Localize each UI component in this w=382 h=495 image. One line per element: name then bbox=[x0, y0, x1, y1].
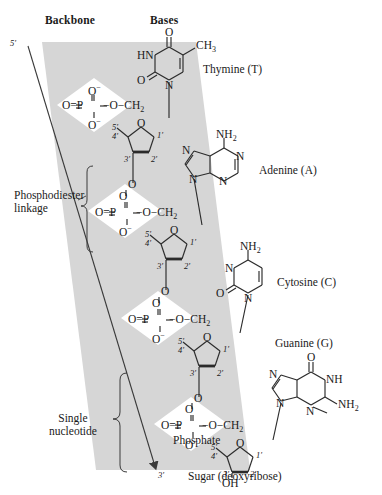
sugar-3-c4: 4′ bbox=[178, 345, 184, 355]
three-prime-terminus: 3′ bbox=[158, 470, 164, 480]
guanine-n7-label: N bbox=[269, 368, 277, 380]
base-label-guanine: Guanine (G) bbox=[275, 337, 333, 350]
linker-oxygen-3: O bbox=[194, 392, 202, 404]
sugar-3-c3: 3′ bbox=[190, 368, 196, 378]
phosphate-4-top-oxygen: O bbox=[185, 403, 193, 415]
header-backbone: Backbone bbox=[45, 14, 95, 26]
sugar-3-c1: 1′ bbox=[223, 344, 229, 354]
five-prime-terminus: 5′ bbox=[10, 38, 16, 48]
phosphate-1-formula: O=P bbox=[62, 99, 83, 111]
sugar-1-c4: 4′ bbox=[112, 131, 118, 141]
adenine-n1-label: N bbox=[236, 150, 244, 162]
callout-phosphodiester-line1: Phosphodiester bbox=[14, 189, 84, 202]
thymine-methyl-label: CH3 bbox=[196, 39, 216, 54]
callout-single-nucleotide: Single nucleotide bbox=[49, 412, 97, 438]
sugar-1-ring-oxygen: O bbox=[137, 117, 145, 129]
sugar-1-c3: 3′ bbox=[124, 154, 130, 164]
adenine-n7-label: N bbox=[182, 144, 190, 156]
dna-strand-diagram: Backbone Bases 5′ 3′ Thymine (T) Adenine… bbox=[0, 0, 382, 495]
cytosine-amino-label: NH2 bbox=[240, 240, 261, 255]
phosphate-2-bottom-oxygen: O− bbox=[119, 224, 132, 238]
sugar-2-c2: 2′ bbox=[184, 261, 190, 271]
sugar-4-c3: 3′ bbox=[223, 469, 229, 479]
sugar-4-ring-oxygen: O bbox=[236, 437, 244, 449]
adenine-n3-label: N bbox=[219, 175, 227, 187]
phosphate-4-bottom-oxygen: O− bbox=[185, 437, 198, 451]
callout-single-nucleotide-line2: nucleotide bbox=[49, 425, 97, 438]
base-label-cytosine: Cytosine (C) bbox=[277, 276, 336, 289]
base-label-thymine: Thymine (T) bbox=[203, 63, 262, 76]
guanine-n9-label: N bbox=[276, 397, 284, 409]
sugar-2-c1: 1′ bbox=[190, 237, 196, 247]
guanine-n1h-label: NH bbox=[326, 373, 343, 385]
callout-phosphodiester-line2: linkage bbox=[14, 202, 84, 215]
thymine-n3h-label: HN bbox=[137, 49, 154, 61]
linker-oxygen-1: O bbox=[128, 178, 136, 190]
guanine-n3-label: N bbox=[306, 405, 314, 417]
sugar-2-c4: 4′ bbox=[145, 238, 151, 248]
thymine-o4-label: O bbox=[165, 26, 173, 38]
header-bases: Bases bbox=[150, 14, 178, 26]
base-label-adenine: Adenine (A) bbox=[259, 164, 317, 177]
phosphate-3-top-oxygen: O bbox=[152, 297, 160, 309]
phosphate-1-top-oxygen: O− bbox=[88, 83, 101, 97]
phosphate-2-bridge-oxygen: −O−CH2 bbox=[136, 206, 177, 221]
callout-phosphodiester: Phosphodiester linkage bbox=[14, 189, 84, 215]
thymine-n1-label: N bbox=[165, 79, 173, 91]
adenine-amino-label: NH2 bbox=[216, 128, 237, 143]
cytosine-n3-label: N bbox=[225, 262, 233, 274]
sugar-4-c1: 1′ bbox=[256, 450, 262, 460]
sugar-1-c2: 2′ bbox=[151, 154, 157, 164]
sugar-1-c1: 1′ bbox=[157, 130, 163, 140]
sugar-3-ring-oxygen: O bbox=[203, 331, 211, 343]
phosphate-1-bottom-oxygen: O− bbox=[88, 117, 101, 131]
sugar-4-c2: 2′ bbox=[250, 469, 256, 479]
sugar-2-ring-oxygen: O bbox=[170, 224, 178, 236]
phosphate-3-bottom-oxygen: O− bbox=[152, 331, 165, 345]
phosphate-4-formula: O=P bbox=[161, 419, 182, 431]
phosphate-1-bridge-oxygen: −O−CH2 bbox=[103, 99, 144, 114]
phosphate-4-bridge-oxygen: −O−CH2 bbox=[202, 419, 243, 434]
sugar-3-c2: 2′ bbox=[217, 368, 223, 378]
guanine-o6-label: O bbox=[307, 351, 315, 363]
phosphate-2-formula: O=P bbox=[95, 206, 116, 218]
phosphate-2-top-oxygen: O bbox=[119, 190, 127, 202]
sugar-2-c3: 3′ bbox=[157, 261, 163, 271]
sugar-4-c4: 4′ bbox=[211, 451, 217, 461]
phosphate-3-formula: O=P bbox=[128, 313, 149, 325]
cytosine-n1-label: N bbox=[244, 292, 252, 304]
phosphate-3-bridge-oxygen: −O−CH2 bbox=[169, 313, 210, 328]
callout-single-nucleotide-line1: Single bbox=[49, 412, 97, 425]
linker-oxygen-2: O bbox=[161, 285, 169, 297]
cytosine-o2-label: O bbox=[216, 287, 224, 299]
thymine-o2-label: O bbox=[137, 74, 145, 86]
adenine-n9-label: N bbox=[189, 173, 197, 185]
guanine-amino-label: NH2 bbox=[338, 398, 359, 413]
